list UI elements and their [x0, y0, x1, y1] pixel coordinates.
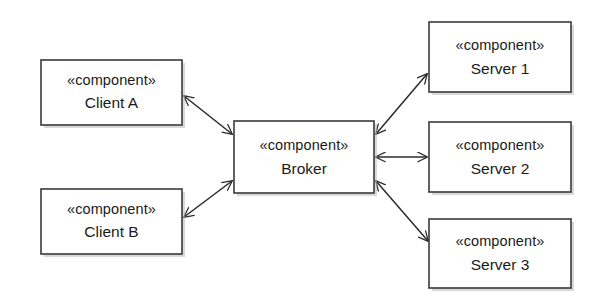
component-node-client-a[interactable]: «component» Client A	[41, 60, 185, 128]
client-b-box[interactable]	[41, 189, 182, 254]
server-2-box[interactable]	[429, 122, 571, 192]
client-a-label: Client A	[85, 94, 139, 111]
connector-broker-server-1	[376, 74, 427, 134]
server-3-label: Server 3	[471, 256, 530, 273]
component-node-server-2[interactable]: «component» Server 2	[429, 122, 574, 195]
client-b-stereotype: «component»	[67, 201, 156, 217]
server-2-label: Server 2	[471, 160, 530, 177]
broker-box[interactable]	[234, 121, 374, 193]
connector-client-b-broker	[184, 181, 232, 217]
connector-client-a-broker	[184, 96, 232, 134]
broker-stereotype: «component»	[260, 137, 349, 153]
server-3-stereotype: «component»	[456, 233, 545, 249]
server-1-label: Server 1	[471, 60, 530, 77]
component-node-server-1[interactable]: «component» Server 1	[429, 22, 574, 95]
broker-label: Broker	[281, 160, 327, 177]
client-b-label: Client B	[84, 223, 138, 240]
server-2-stereotype: «component»	[456, 137, 545, 153]
component-diagram-svg: «component» Client A «component» Client …	[0, 0, 597, 308]
component-node-broker[interactable]: «component» Broker	[234, 121, 377, 196]
component-node-client-b[interactable]: «component» Client B	[41, 189, 185, 257]
server-1-box[interactable]	[429, 22, 571, 92]
client-a-box[interactable]	[41, 60, 182, 125]
component-node-server-3[interactable]: «component» Server 3	[429, 219, 574, 291]
connector-broker-server-3	[376, 181, 428, 241]
server-3-box[interactable]	[429, 219, 571, 288]
client-a-stereotype: «component»	[67, 72, 156, 88]
server-1-stereotype: «component»	[456, 37, 545, 53]
component-diagram-canvas: «component» Client A «component» Client …	[0, 0, 597, 308]
